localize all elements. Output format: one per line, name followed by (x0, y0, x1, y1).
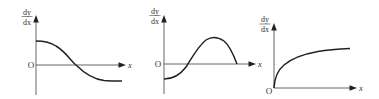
curve (164, 37, 237, 79)
y-label-numerator: dy (151, 7, 159, 16)
x-label: x (257, 59, 262, 69)
curve (36, 41, 122, 81)
origin-label: O (28, 60, 35, 70)
y-axis-arrow-icon (271, 23, 277, 31)
graph-2: dy dx O (150, 7, 257, 95)
graph-3: dy dx O x (260, 15, 364, 96)
y-label-numerator: dy (261, 15, 269, 24)
curve (274, 49, 350, 89)
y-axis-arrow-icon (161, 15, 167, 23)
origin-label: O (266, 86, 273, 96)
x-axis-arrow-icon (350, 85, 358, 91)
y-axis-arrow-icon (33, 15, 39, 23)
y-label-denominator: dx (151, 17, 159, 26)
y-label-denominator: dx (23, 18, 31, 27)
x-label: x (127, 60, 132, 70)
x-label: x (358, 83, 363, 93)
x-axis-arrow-icon (249, 61, 257, 67)
graphs-figure: dy dx O x dy dx O dy dx O x (0, 0, 379, 99)
graph-1: dy dx O x (22, 8, 133, 96)
y-label-denominator: dx (261, 25, 269, 34)
x-axis-arrow-icon (119, 62, 127, 68)
y-label-numerator: dy (23, 8, 31, 17)
origin-label: O (155, 59, 162, 69)
